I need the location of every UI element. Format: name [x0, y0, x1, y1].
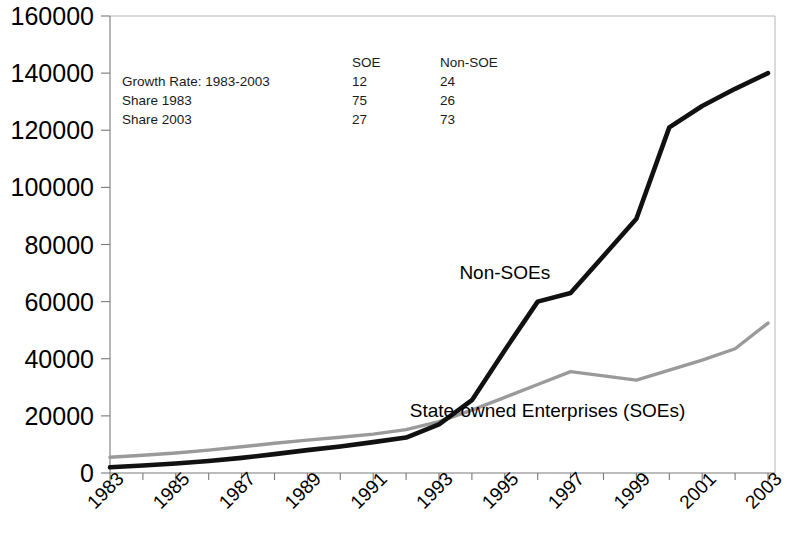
chart-container: 0200004000060000800001000001200001400001… — [0, 0, 787, 544]
x-tick-label: 1993 — [412, 468, 457, 513]
y-tick-label: 100000 — [11, 173, 94, 201]
y-tick-label: 20000 — [24, 402, 94, 430]
x-tick-label: 1995 — [478, 468, 523, 513]
y-tick-group — [101, 16, 110, 473]
annot-row-label: Growth Rate: 1983-2003 — [122, 74, 270, 89]
annot-row-soe-value: 75 — [352, 93, 367, 108]
x-tick-labels: 1983198519871989199119931995199719992001… — [83, 468, 786, 513]
x-tick-label: 1997 — [544, 468, 589, 513]
annotation-table: SOENon-SOEGrowth Rate: 1983-20031224Shar… — [122, 55, 498, 127]
annot-row-soe-value: 12 — [352, 74, 367, 89]
annot-row-label: Share 2003 — [122, 112, 192, 127]
series-label-non-soes: Non-SOEs — [459, 262, 550, 283]
x-axis: 1983198519871989199119931995199719992001… — [83, 468, 786, 513]
x-tick-label: 1991 — [346, 468, 391, 513]
y-tick-label: 140000 — [11, 59, 94, 87]
y-tick-label: 0 — [80, 459, 94, 487]
series-label-soes: State-owned Enterprises (SOEs) — [410, 400, 686, 421]
annot-row-soe-value: 27 — [352, 112, 367, 127]
x-tick-label: 2003 — [741, 468, 786, 513]
x-tick-label: 2001 — [675, 468, 720, 513]
x-tick-label: 1985 — [149, 468, 194, 513]
annot-row-label: Share 1983 — [122, 93, 192, 108]
y-tick-label: 40000 — [24, 345, 94, 373]
annot-header-soe: SOE — [352, 55, 381, 70]
x-tick-label: 1987 — [215, 468, 260, 513]
series-label-group: Non-SOEsState-owned Enterprises (SOEs) — [410, 262, 686, 422]
y-axis: 0200004000060000800001000001200001400001… — [11, 2, 110, 487]
annot-header-non-soe: Non-SOE — [440, 55, 498, 70]
x-tick-label: 1989 — [280, 468, 325, 513]
annot-row-non-soe-value: 73 — [440, 112, 455, 127]
y-tick-label: 60000 — [24, 288, 94, 316]
annot-row-non-soe-value: 24 — [440, 74, 456, 89]
series-line-soe — [110, 323, 768, 457]
annot-row-non-soe-value: 26 — [440, 93, 455, 108]
line-chart-svg: 0200004000060000800001000001200001400001… — [0, 0, 787, 544]
y-tick-labels: 0200004000060000800001000001200001400001… — [11, 2, 94, 487]
y-tick-label: 160000 — [11, 2, 94, 30]
y-tick-label: 120000 — [11, 116, 94, 144]
y-tick-label: 80000 — [24, 231, 94, 259]
x-tick-label: 1999 — [609, 468, 654, 513]
